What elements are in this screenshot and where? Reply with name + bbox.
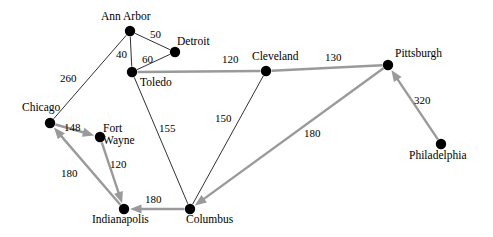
graph-node[interactable]: [261, 66, 271, 76]
node-label: Chicago: [22, 101, 60, 113]
edge-arrowhead: [82, 128, 94, 137]
graph-diagram: 504060260120130155150148120180180180320A…: [0, 0, 493, 237]
edge-weight-label: 50: [150, 29, 161, 41]
graph-edge: [130, 37, 131, 67]
graph-node[interactable]: [125, 26, 135, 36]
graph-node[interactable]: [436, 139, 446, 149]
edge-weight-label: 150: [215, 113, 232, 125]
edge-weight-label: 130: [325, 52, 342, 64]
edge-weight-label: 120: [110, 159, 127, 171]
node-label: Cleveland: [252, 50, 299, 62]
graph-canvas: [0, 0, 493, 237]
graph-node[interactable]: [127, 67, 137, 77]
graph-node[interactable]: [170, 47, 180, 57]
node-label: Philadelphia: [409, 149, 467, 161]
edge-weight-label: 40: [116, 49, 127, 61]
edge-arrowhead: [391, 70, 401, 82]
node-label: Pittsburgh: [395, 47, 442, 59]
graph-edge: [395, 76, 438, 140]
node-label: Toledo: [140, 76, 172, 88]
edge-weight-label: 320: [414, 95, 431, 107]
node-label: Columbus: [186, 213, 233, 225]
edge-weight-label: 180: [61, 168, 78, 180]
node-label: FortWayne: [103, 123, 135, 147]
graph-node[interactable]: [383, 60, 393, 70]
node-label: Indianapolis: [92, 213, 149, 225]
graph-edge: [138, 71, 261, 72]
edge-weight-label: 260: [60, 73, 77, 85]
edge-weight-label: 148: [64, 122, 81, 134]
node-label: Detroit: [177, 35, 210, 47]
edge-weight-label: 155: [159, 123, 176, 135]
graph-edge: [201, 68, 384, 201]
graph-edge: [134, 77, 188, 204]
graph-edge: [193, 76, 264, 204]
graph-edge: [272, 65, 383, 70]
node-label: Ann Arbor: [101, 10, 151, 22]
edge-weight-label: 120: [222, 54, 239, 66]
edge-weight-label: 60: [142, 54, 153, 66]
edge-weight-label: 180: [145, 194, 162, 206]
edge-weight-label: 180: [304, 128, 321, 140]
graph-node[interactable]: [45, 118, 55, 128]
